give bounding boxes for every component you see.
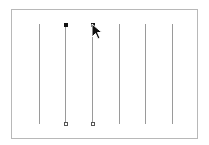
vertical-line-6[interactable] [172,24,173,124]
arrow-cursor-icon [91,23,105,41]
line-end-handle[interactable] [91,122,95,126]
line-end-handle[interactable] [64,122,68,126]
vertical-line-1[interactable] [39,24,40,124]
vertical-line-4[interactable] [119,24,120,124]
line-start-handle[interactable] [64,23,68,27]
vertical-line-5[interactable] [145,24,146,124]
vertical-line-2[interactable] [65,24,66,124]
